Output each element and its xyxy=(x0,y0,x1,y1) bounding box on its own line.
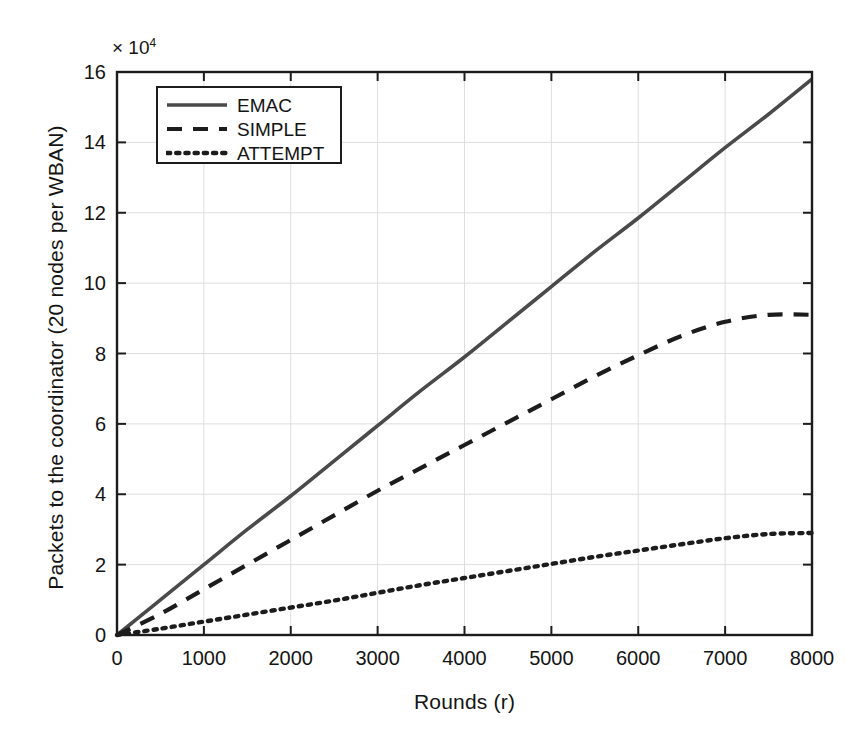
x-tick-label: 8000 xyxy=(790,647,835,670)
x-tick-label: 5000 xyxy=(529,647,574,670)
x-tick-label: 3000 xyxy=(355,647,400,670)
legend-item-emac[interactable]: EMAC xyxy=(166,93,292,117)
x-tick-label: 0 xyxy=(111,647,122,670)
y-tick-label: 12 xyxy=(56,201,106,224)
y-tick-label: 14 xyxy=(56,131,106,154)
legend-item-simple[interactable]: SIMPLE xyxy=(166,117,307,141)
legend: EMACSIMPLEATTEMPT xyxy=(156,86,342,164)
legend-item-attempt[interactable]: ATTEMPT xyxy=(166,141,324,165)
y-tick-label: 10 xyxy=(56,272,106,295)
legend-label: SIMPLE xyxy=(237,120,307,139)
plot-area xyxy=(0,0,864,740)
x-tick-label: 6000 xyxy=(616,647,661,670)
x-tick-label: 2000 xyxy=(269,647,314,670)
x-tick-label: 1000 xyxy=(182,647,227,670)
legend-label: EMAC xyxy=(237,96,292,115)
figure-canvas: × 104 Packets to the coordinator (20 nod… xyxy=(0,0,864,740)
y-tick-label: 16 xyxy=(56,61,106,84)
x-tick-label: 7000 xyxy=(703,647,748,670)
y-tick-label: 0 xyxy=(56,624,106,647)
y-tick-label: 2 xyxy=(56,553,106,576)
y-tick-label: 4 xyxy=(56,483,106,506)
y-tick-label: 6 xyxy=(56,412,106,435)
legend-label: ATTEMPT xyxy=(237,144,324,163)
legend-line-sample-simple xyxy=(166,122,228,136)
legend-line-sample-attempt xyxy=(166,146,228,160)
legend-line-sample-emac xyxy=(166,98,228,112)
y-tick-label: 8 xyxy=(56,342,106,365)
x-tick-label: 4000 xyxy=(442,647,487,670)
